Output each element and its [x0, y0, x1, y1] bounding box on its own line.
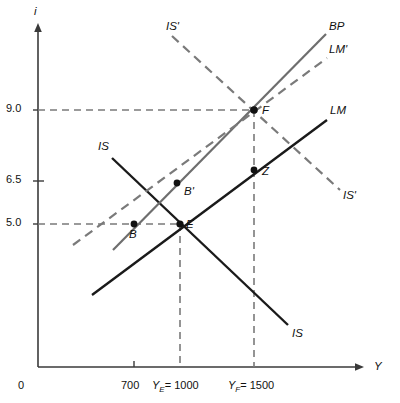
- curve-label-is-prime-top: IS': [166, 21, 179, 33]
- x-axis-arrowhead: [355, 363, 364, 371]
- tick-marks-group: [33, 110, 134, 367]
- curve-is: [112, 158, 288, 325]
- curve-label-is-left: IS: [98, 141, 109, 153]
- point-e: [176, 220, 183, 227]
- curve-lm: [92, 120, 327, 295]
- point-b: [131, 221, 138, 228]
- point-label-f: F: [262, 105, 269, 117]
- point-b-prime: [174, 180, 181, 187]
- curve-lm-prime: [73, 58, 327, 245]
- curve-bp: [113, 34, 326, 250]
- point-label-z: Z: [262, 166, 269, 178]
- x-tick-label-700: 700: [121, 380, 139, 391]
- curve-label-is-bottom: IS: [292, 328, 303, 340]
- y-tick-label-5: 5.0: [6, 217, 21, 228]
- x-axis-label: Y: [374, 361, 382, 373]
- y-tick-label-9: 9.0: [6, 103, 21, 114]
- curve-label-is-prime-right: IS': [343, 190, 356, 202]
- yf-value: = 1500: [240, 379, 274, 391]
- ye-value: = 1000: [165, 379, 199, 391]
- point-z: [251, 167, 258, 174]
- curve-label-lm-prime: LM': [329, 44, 347, 56]
- x-tick-label-yf: YF= 1500: [228, 380, 274, 394]
- point-label-b-prime: B': [184, 186, 194, 198]
- axes-group: [34, 23, 364, 371]
- islm-bp-diagram: i Y 0 9.0 6.5 5.0 700 YE= 1000 YF= 1500 …: [0, 0, 400, 403]
- point-label-e: E: [186, 219, 194, 231]
- curve-label-bp: BP: [329, 21, 344, 33]
- point-label-b: B: [129, 229, 137, 241]
- y-axis-arrowhead: [34, 23, 42, 32]
- y-axis-label: i: [34, 6, 37, 18]
- point-f: [250, 106, 258, 114]
- guide-lines-group: [38, 110, 254, 367]
- chart-canvas: [0, 0, 400, 403]
- x-tick-label-ye: YE= 1000: [152, 380, 199, 394]
- origin-label: 0: [18, 380, 24, 391]
- y-tick-label-6-5: 6.5: [6, 174, 21, 185]
- curve-label-lm: LM: [330, 105, 346, 117]
